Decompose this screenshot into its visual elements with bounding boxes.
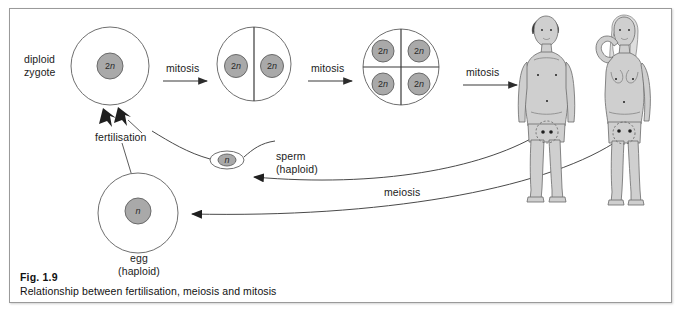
nucleus-label-two-cell-a: 2n — [231, 61, 241, 71]
nucleus-label-two-cell-b: 2n — [267, 61, 277, 71]
figure-container: 2n 2n 2n 2n 2n 2n 2n n n diploid zygote … — [0, 0, 683, 322]
nucleus-label-four-cell-d: 2n — [414, 79, 424, 89]
label-diploid-zygote: diploid zygote — [24, 53, 56, 78]
label-mitosis-3: mitosis — [466, 66, 499, 79]
nucleus-label-four-cell-a: 2n — [378, 46, 388, 56]
nucleus-label-zygote: 2n — [105, 61, 115, 71]
label-mitosis-1: mitosis — [166, 62, 199, 75]
figure-caption-id: Fig. 1.9 — [20, 271, 58, 283]
nucleus-label-egg: n — [135, 206, 140, 216]
label-egg: egg (haploid) — [98, 252, 180, 277]
nucleus-label-sperm: n — [224, 155, 229, 165]
label-fertilisation: fertilisation — [95, 131, 147, 144]
nucleus-label-four-cell-c: 2n — [378, 79, 388, 89]
nucleus-label-four-cell-b: 2n — [414, 46, 424, 56]
label-mitosis-2: mitosis — [311, 62, 344, 75]
label-meiosis: meiosis — [384, 186, 420, 199]
label-sperm: sperm (haploid) — [276, 150, 318, 175]
figure-caption-text: Relationship between fertilisation, meio… — [20, 285, 276, 297]
